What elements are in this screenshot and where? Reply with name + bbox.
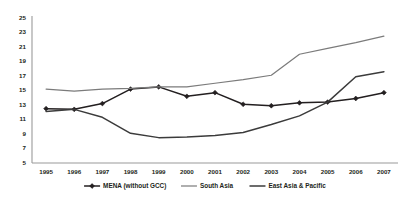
chart-legend: MENA (without GCC)South AsiaEast Asia & …	[84, 182, 326, 190]
chart-canvas: 2523211917151311975199519961997199819992…	[0, 0, 408, 205]
y-tick-label: 9	[23, 130, 27, 137]
data-point-marker	[184, 94, 189, 99]
legend-item-label: East Asia & Pacific	[268, 182, 326, 189]
x-tick-label: 1997	[96, 168, 110, 175]
series-1	[44, 84, 387, 111]
series-line	[46, 36, 384, 91]
data-point-marker	[353, 96, 358, 101]
x-tick-label: 1995	[39, 168, 53, 175]
legend-item-label: South Asia	[200, 182, 234, 189]
y-tick-label: 21	[19, 43, 26, 50]
y-tick-label: 5	[23, 159, 27, 166]
y-tick-label: 15	[19, 86, 26, 93]
x-tick-label: 2001	[208, 168, 222, 175]
y-tick-label: 25	[19, 14, 26, 21]
x-tick-label: 2006	[349, 168, 363, 175]
x-tick-label: 2005	[321, 168, 335, 175]
legend-marker-icon	[90, 184, 95, 189]
data-point-marker	[297, 100, 302, 105]
y-tick-label: 17	[19, 72, 26, 79]
data-point-marker	[241, 102, 246, 107]
legend-item-label: MENA (without GCC)	[103, 182, 166, 190]
series-2	[46, 36, 384, 91]
x-tick-label: 2007	[377, 168, 391, 175]
line-chart: 2523211917151311975199519961997199819992…	[0, 0, 408, 205]
data-point-marker	[44, 106, 49, 111]
x-tick-label: 1996	[67, 168, 81, 175]
data-point-marker	[382, 90, 387, 95]
x-tick-label: 1999	[152, 168, 166, 175]
x-tick-label: 2004	[293, 168, 307, 175]
data-point-marker	[213, 90, 218, 95]
y-tick-label: 7	[23, 144, 27, 151]
x-tick-label: 2000	[180, 168, 194, 175]
y-tick-label: 23	[19, 28, 26, 35]
y-tick-label: 19	[19, 57, 26, 64]
x-tick-label: 2003	[264, 168, 278, 175]
x-tick-label: 1998	[124, 168, 138, 175]
x-tick-label: 2002	[236, 168, 250, 175]
y-tick-label: 13	[19, 101, 26, 108]
data-point-marker	[269, 103, 274, 108]
y-tick-label: 11	[19, 115, 26, 122]
